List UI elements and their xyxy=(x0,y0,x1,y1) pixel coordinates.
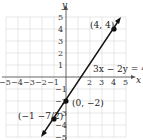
svg-text:−4: −4 xyxy=(11,78,23,87)
svg-text:−3: −3 xyxy=(23,78,35,87)
svg-text:5: 5 xyxy=(58,13,63,22)
svg-text:−1: −1 xyxy=(55,85,67,94)
graph: x y −5 −4 −3 −2 −1 2 3 4 5 5 4 3 2 1 −1 … xyxy=(0,0,143,140)
svg-text:−5: −5 xyxy=(0,78,11,87)
svg-text:3: 3 xyxy=(99,78,104,87)
svg-text:4: 4 xyxy=(111,78,116,87)
line-arrow-top-icon xyxy=(115,17,121,24)
svg-text:1: 1 xyxy=(58,61,63,70)
point-label-4-4: (4, 4) xyxy=(90,20,114,30)
svg-text:−4: −4 xyxy=(55,121,67,130)
point-label-neg1-neg3.5: (−1 −7/2) xyxy=(18,111,63,121)
x-axis-label: x xyxy=(136,75,141,85)
svg-text:−5: −5 xyxy=(55,133,67,140)
point-label-0-neg2: (0, −2) xyxy=(72,98,104,108)
svg-text:2: 2 xyxy=(58,49,63,58)
svg-text:3: 3 xyxy=(58,37,63,46)
svg-text:5: 5 xyxy=(123,78,128,87)
point-0-neg2 xyxy=(63,98,68,103)
svg-text:−2: −2 xyxy=(35,78,47,87)
y-axis-label: y xyxy=(61,0,68,10)
svg-text:2: 2 xyxy=(87,78,92,87)
svg-text:4: 4 xyxy=(58,25,63,34)
equation-label: 3x − 2y = 4 xyxy=(93,64,143,74)
